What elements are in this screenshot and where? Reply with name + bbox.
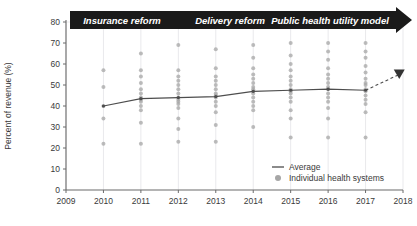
banner-segment-label: Insurance reform: [83, 15, 161, 26]
scatter-point: [139, 104, 143, 108]
scatter-point: [176, 68, 180, 72]
x-axis-tick-label: 2016: [319, 196, 338, 206]
x-axis: 2009201020112012201320142015201620172018: [57, 190, 413, 206]
y-axis-title: Percent of revenue (%): [3, 62, 13, 150]
scatter-point: [326, 66, 330, 70]
scatter-point: [214, 83, 218, 87]
scatter-point: [214, 87, 218, 91]
scatter-point: [326, 58, 330, 62]
x-axis-tick-label: 2018: [394, 196, 413, 206]
scatter-point: [326, 73, 330, 77]
chart-container: 01020304050607080 2009201020112012201320…: [0, 0, 417, 226]
x-axis-tick-label: 2013: [206, 196, 225, 206]
x-axis-tick-label: 2010: [94, 196, 113, 206]
x-axis-tick-label: 2017: [356, 196, 375, 206]
scatter-point: [364, 136, 368, 140]
scatter-point: [289, 62, 293, 66]
average-point: [139, 97, 142, 100]
scatter-point: [326, 136, 330, 140]
scatter-point: [364, 110, 368, 114]
scatter-point: [326, 77, 330, 81]
scatter-point: [289, 136, 293, 140]
scatter-point: [176, 79, 180, 83]
scatter-point: [251, 66, 255, 70]
scatter-point: [176, 75, 180, 79]
scatter-point: [214, 75, 218, 79]
scatter-point: [176, 106, 180, 110]
scatter-point: [364, 94, 368, 98]
scatter-point: [289, 117, 293, 121]
scatter-point: [364, 64, 368, 68]
scatter-point: [289, 108, 293, 112]
y-axis-tick-label: 40: [51, 101, 61, 111]
scatter-point: [139, 87, 143, 91]
scatter-point: [176, 117, 180, 121]
scatter-point: [176, 43, 180, 47]
scatter-point: [364, 102, 368, 106]
scatter-point: [251, 104, 255, 108]
scatter-point: [326, 81, 330, 85]
scatter-point: [326, 96, 330, 100]
legend-item-label: Average: [289, 162, 321, 172]
y-axis-tick-label: 60: [51, 59, 61, 69]
scatter-point: [326, 100, 330, 104]
scatter-point: [214, 79, 218, 83]
scatter-point: [326, 106, 330, 110]
scatter-point: [176, 102, 180, 106]
y-axis-tick-label: 30: [51, 122, 61, 132]
scatter-point: [176, 87, 180, 91]
scatter-point: [176, 127, 180, 131]
scatter-point: [289, 91, 293, 95]
scatter-point: [326, 41, 330, 45]
legend-item-label: Individual health systems: [289, 173, 384, 183]
revenue-chart: 01020304050607080 2009201020112012201320…: [0, 0, 417, 226]
x-axis-tick-label: 2011: [132, 196, 151, 206]
scatter-point: [176, 140, 180, 144]
legend-dot-marker: [275, 175, 281, 181]
scatter-point: [251, 81, 255, 85]
scatter-point: [364, 83, 368, 87]
scatter-point: [101, 68, 105, 72]
scatter-point: [214, 47, 218, 51]
scatter-point: [176, 83, 180, 87]
scatter-point: [101, 142, 105, 146]
scatter-point: [214, 66, 218, 70]
scatter-point: [289, 41, 293, 45]
scatter-point: [251, 77, 255, 81]
scatter-point: [326, 91, 330, 95]
scatter-point: [251, 43, 255, 47]
y-axis-tick-label: 50: [51, 80, 61, 90]
x-axis-tick-label: 2012: [169, 196, 188, 206]
scatter-point: [139, 75, 143, 79]
scatter-point: [326, 49, 330, 53]
scatter-point: [326, 117, 330, 121]
y-axis-tick-label: 10: [51, 164, 61, 174]
projection-dashed-line: [366, 75, 400, 91]
scatter-point: [364, 77, 368, 81]
banner-segment-label: Public health utility model: [271, 15, 389, 26]
scatter-point: [289, 54, 293, 58]
scatter-point: [364, 56, 368, 60]
y-axis-tick-label: 80: [51, 17, 61, 27]
x-axis-tick-label: 2015: [281, 196, 300, 206]
average-point: [177, 96, 180, 99]
scatter-point: [289, 83, 293, 87]
scatter-point: [251, 100, 255, 104]
scatter-point: [251, 56, 255, 60]
scatter-point: [251, 125, 255, 129]
x-axis-tick-label: 2009: [57, 196, 76, 206]
scatter-point: [214, 110, 218, 114]
phase-banner: Insurance reformDelivery reformPublic he…: [70, 7, 412, 33]
y-axis-tick-label: 70: [51, 38, 61, 48]
scatter-point: [176, 91, 180, 95]
scatter-point: [139, 108, 143, 112]
scatter-point: [139, 91, 143, 95]
average-point: [327, 88, 330, 91]
y-axis-tick-label: 0: [55, 185, 60, 195]
grid-lines: [66, 22, 403, 190]
scatter-point: [139, 142, 143, 146]
scatter-point: [251, 96, 255, 100]
scatter-point: [214, 104, 218, 108]
projection-arrow: [366, 70, 405, 91]
scatter-point: [289, 79, 293, 83]
